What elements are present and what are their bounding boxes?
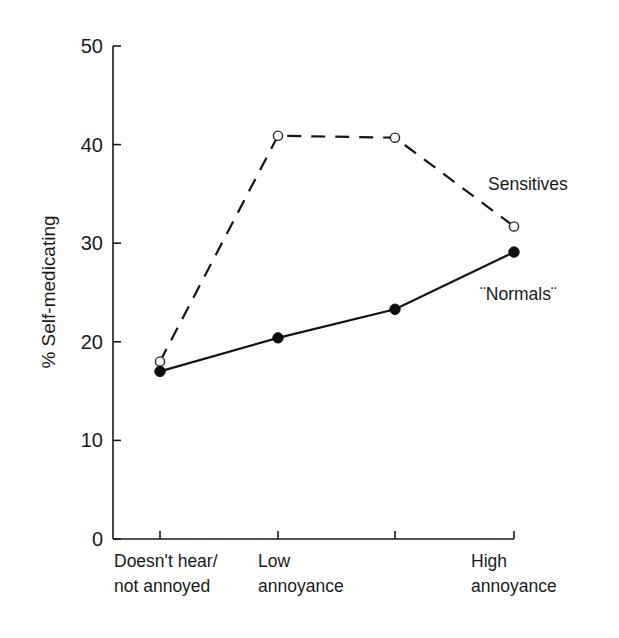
y-tick-label: 0 — [92, 528, 103, 550]
line-chart: 01020304050 Doesn't hear/not annoyedLowa… — [0, 0, 619, 638]
x-category-label-line1: High — [471, 551, 507, 571]
x-category-label-line1: Doesn't hear/ — [114, 551, 218, 571]
series-line-sensitives — [160, 136, 514, 362]
y-tick-label: 10 — [81, 429, 103, 451]
open-circle-marker — [509, 222, 518, 231]
series-layer — [155, 131, 519, 376]
x-category-label-line2: annoyance — [258, 576, 344, 596]
series-line-normals — [160, 252, 514, 371]
x-category-label-line1: Low — [258, 551, 290, 571]
open-circle-marker — [155, 357, 164, 366]
y-axis: 01020304050 — [81, 35, 121, 550]
y-tick-label: 50 — [81, 35, 103, 57]
x-category-label-line2: annoyance — [471, 576, 557, 596]
filled-circle-marker — [509, 247, 519, 257]
filled-circle-marker — [155, 366, 165, 376]
x-category-label-line2: not annoyed — [114, 576, 210, 596]
y-tick-label: 30 — [81, 232, 103, 254]
open-circle-marker — [390, 133, 399, 142]
series-labels: Sensitives¨Normals¨ — [480, 174, 568, 304]
series-label-normals: ¨Normals¨ — [480, 284, 557, 304]
filled-circle-marker — [390, 304, 400, 314]
open-circle-marker — [273, 131, 282, 140]
y-axis-title: % Self-medicating — [38, 215, 59, 368]
filled-circle-marker — [273, 333, 283, 343]
y-tick-label: 20 — [81, 331, 103, 353]
x-axis: Doesn't hear/not annoyedLowannoyanceHigh… — [113, 531, 557, 596]
series-label-sensitives: Sensitives — [488, 174, 568, 194]
y-tick-label: 40 — [81, 134, 103, 156]
